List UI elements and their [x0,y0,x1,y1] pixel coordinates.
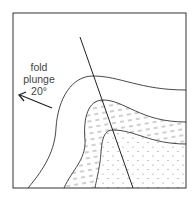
fold-plunge-label: fold plunge 20° [19,61,59,97]
label-line-3: 20° [19,85,59,97]
fold-diagram [0,0,195,197]
label-line-2: plunge [19,73,59,85]
label-line-1: fold [19,61,59,73]
